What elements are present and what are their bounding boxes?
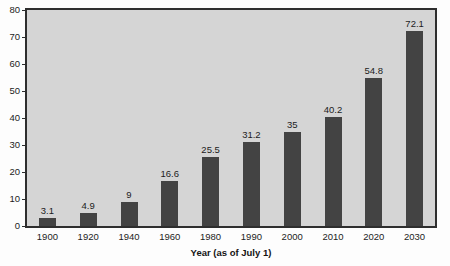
y-axis: 01020304050607080 bbox=[0, 8, 25, 228]
x-tick-label: 1940 bbox=[118, 230, 139, 243]
x-tick-label: 2030 bbox=[404, 230, 425, 243]
x-tick-label: 1980 bbox=[200, 230, 221, 243]
x-tick-label: 2020 bbox=[363, 230, 384, 243]
bar bbox=[80, 213, 97, 226]
y-tick-label: 30 bbox=[9, 140, 22, 150]
bar bbox=[39, 218, 56, 226]
x-axis-title: Year (as of July 1) bbox=[25, 247, 437, 258]
x-tick-label: 1920 bbox=[78, 230, 99, 243]
y-tick-label: 50 bbox=[9, 86, 22, 96]
bar bbox=[202, 157, 219, 226]
x-tick-label: 1900 bbox=[37, 230, 58, 243]
bar-value-label: 16.6 bbox=[161, 169, 180, 179]
y-tick-label: 20 bbox=[9, 167, 22, 177]
bar bbox=[365, 78, 382, 226]
x-tick-label: 1960 bbox=[159, 230, 180, 243]
bar-value-label: 4.9 bbox=[82, 201, 95, 211]
bar-value-label: 3.1 bbox=[41, 206, 54, 216]
bar bbox=[161, 181, 178, 226]
x-tick-label: 1990 bbox=[241, 230, 262, 243]
y-tick-label: 10 bbox=[9, 194, 22, 204]
bar-value-label: 35 bbox=[287, 120, 298, 130]
bar-value-label: 9 bbox=[126, 190, 131, 200]
bar bbox=[284, 132, 301, 227]
bar-value-label: 40.2 bbox=[324, 105, 343, 115]
bar-value-label: 54.8 bbox=[365, 66, 384, 76]
x-axis: 1900192019401960198019902000201020202030 bbox=[25, 230, 437, 244]
bar bbox=[243, 142, 260, 226]
bar-value-label: 31.2 bbox=[242, 130, 261, 140]
plot-area bbox=[25, 8, 437, 228]
bar bbox=[325, 117, 342, 226]
bars-layer bbox=[27, 10, 435, 226]
y-tick-label: 0 bbox=[15, 221, 22, 231]
bar bbox=[121, 202, 138, 226]
y-tick-label: 60 bbox=[9, 59, 22, 69]
y-tick-label: 70 bbox=[9, 32, 22, 42]
y-tick-label: 40 bbox=[9, 113, 22, 123]
bar-value-label: 72.1 bbox=[405, 19, 424, 29]
bar-value-label: 25.5 bbox=[201, 145, 220, 155]
y-tick-label: 80 bbox=[9, 5, 22, 15]
bar-chart-figure: 01020304050607080 1900192019401960198019… bbox=[0, 0, 450, 266]
bar bbox=[406, 31, 423, 226]
x-tick-label: 2010 bbox=[322, 230, 343, 243]
x-tick-label: 2000 bbox=[282, 230, 303, 243]
